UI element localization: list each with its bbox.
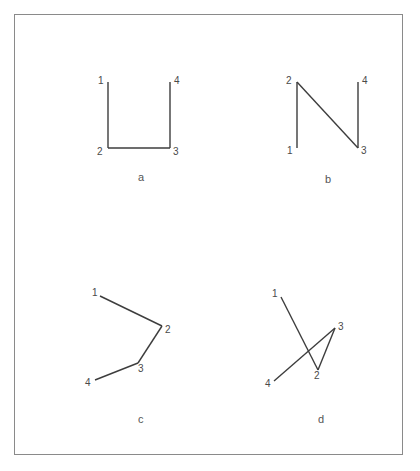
vertex-label-b-1: 1 [287, 146, 293, 156]
shape-a [108, 82, 170, 148]
vertex-label-c-3: 3 [138, 364, 144, 374]
vertex-label-b-3: 3 [361, 146, 367, 156]
panel-caption-c: c [138, 414, 144, 425]
vertex-label-d-4: 4 [265, 379, 271, 389]
vertex-label-d-3: 3 [338, 322, 344, 332]
vertex-label-c-2: 2 [165, 325, 171, 335]
figure-page: 1234a1234b1234c1234d [0, 0, 420, 471]
vertex-label-a-4: 4 [174, 76, 180, 86]
figure-border-frame: 1234a1234b1234c1234d [14, 14, 403, 455]
panel-caption-b: b [325, 174, 331, 185]
shape-c [95, 296, 162, 380]
shape-d [274, 297, 335, 381]
vertex-label-d-2: 2 [314, 371, 320, 381]
segment-d-2-3 [318, 328, 335, 370]
vertex-label-c-1: 1 [92, 288, 98, 298]
panel-caption-a: a [138, 172, 144, 183]
vertex-label-b-4: 4 [362, 76, 368, 86]
line-drawing-canvas [15, 15, 404, 456]
vertex-label-c-4: 4 [85, 378, 91, 388]
vertex-label-a-1: 1 [98, 76, 104, 86]
segment-b-2-3 [297, 82, 358, 148]
segment-c-2-3 [138, 326, 162, 363]
segment-c-1-2 [100, 296, 162, 326]
segment-d-3-4 [274, 328, 335, 381]
vertex-label-b-2: 2 [286, 76, 292, 86]
shape-b [297, 82, 358, 148]
vertex-label-a-2: 2 [97, 147, 103, 157]
panel-caption-d: d [318, 414, 324, 425]
segment-c-3-4 [95, 363, 138, 380]
vertex-label-d-1: 1 [272, 289, 278, 299]
vertex-label-a-3: 3 [173, 147, 179, 157]
